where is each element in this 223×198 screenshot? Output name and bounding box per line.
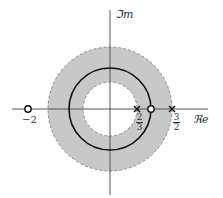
pole-label-3-2-den: 2 [173,123,180,132]
pole-label-2-3-den: 3 [136,123,143,132]
zero-marker-minus-2 [25,106,31,112]
pole-label-2-3-num: 2 [136,113,143,122]
pole-label-3-2-num: 3 [173,113,180,122]
imag-axis-label: ℑm [115,8,133,21]
zero-label-minus-2: −2 [22,114,37,125]
zero-marker-1 [148,106,154,112]
pole-label-2-3: 2 3 [136,113,143,132]
real-axis-label: ℜe [193,113,209,126]
pole-zero-plot [0,0,223,198]
pole-label-3-2: 3 2 [173,113,180,132]
